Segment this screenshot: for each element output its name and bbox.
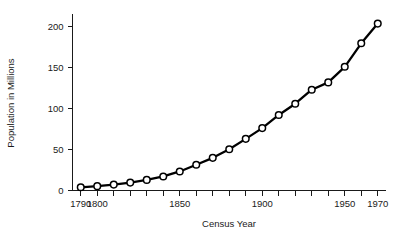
y-tick-label: 200 (48, 21, 64, 32)
x-tick-label: 1800 (87, 198, 108, 209)
y-tick-label: 0 (58, 185, 63, 196)
data-point (193, 161, 200, 168)
data-point (341, 63, 348, 70)
data-point (259, 125, 266, 132)
y-tick-group: 050100150200 (48, 21, 73, 196)
y-axis-title: Population in Millions (5, 58, 16, 147)
data-point (226, 146, 233, 153)
data-point (325, 79, 332, 86)
data-point (292, 100, 299, 107)
data-point (374, 20, 381, 27)
data-point (110, 181, 117, 188)
data-point (160, 173, 167, 180)
x-tick-label: 1850 (169, 198, 190, 209)
data-point (275, 112, 282, 119)
data-point (242, 136, 249, 143)
x-tick-label: 1970 (367, 198, 388, 209)
y-axis-group: 050100150200 (48, 14, 73, 196)
x-tick-label: 1950 (334, 198, 355, 209)
data-point-markers (77, 20, 381, 190)
x-axis-title: Census Year (202, 218, 256, 229)
data-point (94, 183, 101, 190)
x-axis-group: 179018001850190019501970 (70, 191, 388, 209)
data-point (209, 155, 216, 162)
y-tick-label: 50 (53, 144, 64, 155)
data-point (127, 179, 134, 186)
x-tick-label: 1900 (252, 198, 273, 209)
chart-figure: 050100150200 179018001850190019501970 Po… (0, 0, 400, 239)
y-tick-label: 150 (48, 62, 64, 73)
data-point (77, 184, 84, 191)
data-point (308, 86, 315, 93)
population-trend-line (81, 24, 378, 188)
data-point (358, 40, 365, 47)
y-tick-label: 100 (48, 103, 64, 114)
data-point (176, 168, 183, 175)
x-tick-group: 179018001850190019501970 (70, 191, 388, 209)
data-point (143, 177, 150, 184)
population-line-chart: 050100150200 179018001850190019501970 Po… (0, 0, 400, 239)
data-series-group (77, 20, 381, 190)
